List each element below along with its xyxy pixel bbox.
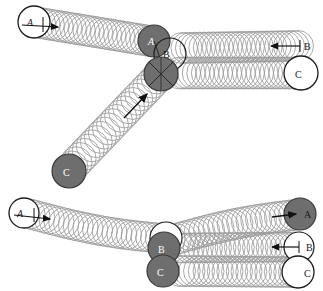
ball-a-end-bottom-label: A [304,209,312,220]
collision-diagram-svg: A A B [0,0,323,291]
ball-c-impact-top [144,57,178,91]
ball-c-end-bottom-label: C [304,268,311,279]
ball-b-impact-bottom-label: B [158,244,165,255]
ball-a-start-bottom-label: A [16,208,24,219]
ball-c-impact-bottom-label: C [157,267,164,278]
ball-b-end-bottom-label: B [306,242,313,253]
figure-canvas: A A B [0,0,323,291]
ball-c-start-top-label: C [63,167,70,178]
ball-c-end-top-label: C [295,69,302,80]
ball-b-end-top-label: B [304,41,311,52]
ball-c-end-bottom: C [282,256,314,288]
ball-c-impact-bottom: C [147,255,179,287]
ball-c-end-top: C [284,56,318,90]
ball-a-impact-top-label: A [147,36,155,47]
ball-c-start-top: C [52,154,86,188]
ball-a-start-top-label: A [26,17,34,28]
